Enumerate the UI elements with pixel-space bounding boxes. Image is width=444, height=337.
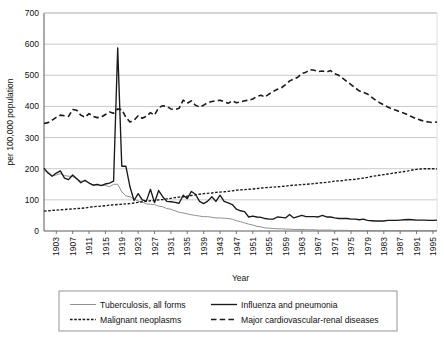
y-tick-label: 400 [25,101,39,111]
x-tick-label: 1983 [379,237,389,256]
x-tick-label: 1947 [232,237,242,256]
y-tick-label: 700 [25,8,39,18]
chart-legend[interactable]: Tuberculosis, all formsInfluenza and pne… [59,291,397,331]
x-tick-label: 1963 [297,237,307,256]
x-tick-label: 1967 [313,237,323,256]
x-tick-label: 1991 [412,237,422,256]
x-tick-label: 1987 [395,237,405,256]
y-axis-title: per 100,000 population [5,78,15,165]
x-axis-title: Year [232,273,249,283]
x-tick-label: 1927 [150,237,160,256]
legend-label-3[interactable]: Major cardiovascular-renal diseases [241,315,379,325]
x-tick-label: 1955 [264,237,274,256]
x-tick-label: 1995 [428,237,438,256]
x-tick-label: 1979 [363,237,373,256]
legend-label-0[interactable]: Tuberculosis, all forms [100,300,186,310]
y-tick-label: 500 [25,70,39,80]
x-tick-label: 1903 [51,237,61,256]
x-tick-label: 1935 [182,237,192,256]
x-tick-label: 1943 [215,237,225,256]
x-tick-label: 1939 [199,237,209,256]
x-tick-label: 1951 [248,237,258,256]
y-tick-label: 300 [25,133,39,143]
x-tick-label: 1915 [101,237,111,256]
x-tick-label: 1931 [166,237,176,256]
x-tick-label: 1911 [84,237,94,256]
x-tick-label: 1923 [133,237,143,256]
x-tick-label: 1907 [68,237,78,256]
legend-label-1[interactable]: Influenza and pneumonia [241,300,338,310]
x-tick-label: 1959 [281,237,291,256]
y-tick-label: 600 [25,39,39,49]
y-tick-label: 0 [34,226,39,236]
y-tick-label: 200 [25,164,39,174]
mortality-line-chart: 0100200300400500600700 19031907191119151… [0,0,444,337]
x-tick-label: 1919 [117,237,127,256]
chart-container: 0100200300400500600700 19031907191119151… [0,0,444,337]
x-tick-label: 1975 [346,237,356,256]
legend-box [59,291,397,331]
y-tick-label: 100 [25,195,39,205]
x-tick-label: 1971 [330,237,340,256]
legend-label-2[interactable]: Malignant neoplasms [100,315,181,325]
